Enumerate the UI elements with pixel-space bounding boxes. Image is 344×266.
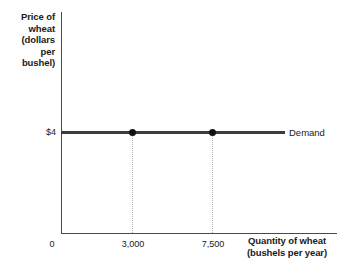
dropline-3000 xyxy=(132,134,133,233)
y-axis-title-line-3: (dollars xyxy=(0,34,55,46)
y-axis-title-line-2: wheat xyxy=(0,23,55,35)
y-axis-title-line-5: bushel) xyxy=(0,57,55,69)
y-axis-title-line-4: per xyxy=(0,46,55,58)
x-axis-title-line-2: (bushels per year) xyxy=(231,247,343,259)
demand-series-label: Demand xyxy=(289,127,325,138)
x-tick-label-origin: 0 xyxy=(42,239,62,249)
y-tick-label-price: $4 xyxy=(28,127,56,137)
data-point xyxy=(129,129,136,136)
data-point xyxy=(209,129,216,136)
demand-curve-chart: Price of wheat (dollars per bushel) $4 D… xyxy=(0,0,344,266)
x-axis-line xyxy=(61,233,337,234)
y-axis-line xyxy=(61,12,62,234)
y-axis-title-line-1: Price of xyxy=(0,11,55,23)
dropline-7500 xyxy=(212,134,213,233)
y-axis-title: Price of wheat (dollars per bushel) xyxy=(0,11,55,69)
demand-line xyxy=(61,131,285,134)
x-axis-title-line-1: Quantity of wheat xyxy=(231,235,343,247)
x-axis-title: Quantity of wheat (bushels per year) xyxy=(231,235,343,258)
x-tick-label-3000: 3,000 xyxy=(108,239,158,249)
